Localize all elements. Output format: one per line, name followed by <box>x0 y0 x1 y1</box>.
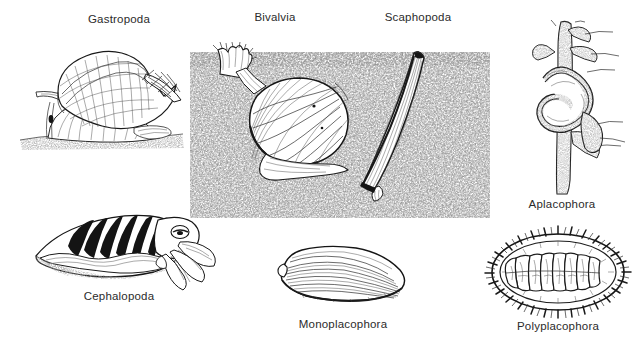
label-aplacophora: Aplacophora <box>529 198 596 210</box>
gastropoda-drawing <box>14 40 194 158</box>
label-scaphopoda: Scaphopoda <box>385 11 452 23</box>
mollusc-classes-figure: Gastropoda Bivalvia Scaphopoda Aplacopho… <box>0 0 641 344</box>
organism-bivalvia <box>196 42 368 184</box>
polyplacophora-plates <box>505 253 600 291</box>
label-bivalvia: Bivalvia <box>254 11 295 23</box>
bivalvia-siphons <box>213 42 266 94</box>
organism-scaphopoda <box>352 44 440 202</box>
aplacophora-drawing <box>523 20 635 196</box>
bivalvia-drawing <box>196 42 368 184</box>
scaphopoda-drawing <box>352 44 440 202</box>
organism-gastropoda <box>14 40 194 158</box>
organism-monoplacophora <box>272 240 414 314</box>
organism-cephalopoda <box>28 206 220 292</box>
gastropoda-eye <box>49 115 54 123</box>
label-polyplacophora: Polyplacophora <box>517 320 599 332</box>
monoplacophora-drawing <box>272 240 414 314</box>
label-monoplacophora: Monoplacophora <box>299 318 387 330</box>
polyplacophora-drawing <box>480 226 636 318</box>
organism-aplacophora <box>523 20 635 196</box>
organism-polyplacophora <box>480 226 636 318</box>
label-cephalopoda: Cephalopoda <box>84 290 155 302</box>
monoplacophora-apex <box>278 264 287 277</box>
cephalopoda-drawing <box>28 206 220 292</box>
label-gastropoda: Gastropoda <box>88 13 150 25</box>
